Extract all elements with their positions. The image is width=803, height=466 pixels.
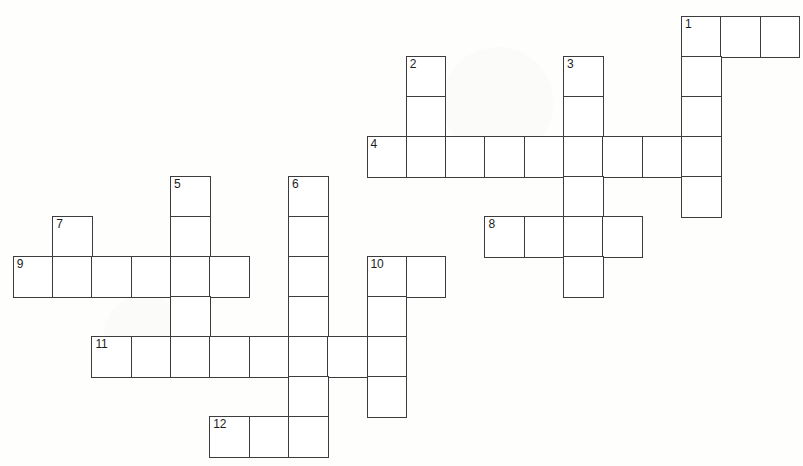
crossword-cell[interactable] — [406, 256, 447, 297]
crossword-cell[interactable] — [563, 176, 604, 217]
cell-number-9: 9 — [17, 257, 23, 271]
crossword-cell[interactable] — [288, 376, 329, 417]
crossword-cell[interactable]: 8 — [484, 216, 525, 257]
crossword-cell[interactable] — [642, 136, 683, 177]
cell-number-3: 3 — [567, 57, 573, 71]
crossword-cell[interactable] — [288, 296, 329, 337]
crossword-cell[interactable]: 7 — [52, 216, 93, 257]
crossword-cell[interactable] — [209, 336, 250, 377]
cell-number-6: 6 — [292, 177, 298, 191]
crossword-cell[interactable] — [760, 16, 801, 57]
crossword-cell[interactable] — [406, 96, 447, 137]
crossword-cell[interactable] — [563, 96, 604, 137]
crossword-cell[interactable] — [681, 176, 722, 217]
crossword-cell[interactable] — [720, 16, 761, 57]
crossword-cell[interactable] — [170, 296, 211, 337]
crossword-cell[interactable]: 9 — [13, 256, 54, 297]
crossword-cell[interactable]: 2 — [406, 56, 447, 97]
crossword-cell[interactable] — [445, 136, 486, 177]
crossword-cell[interactable] — [602, 136, 643, 177]
crossword-cell[interactable] — [602, 216, 643, 257]
cell-number-2: 2 — [410, 57, 416, 71]
crossword-cell[interactable] — [209, 256, 250, 297]
crossword-cell[interactable]: 3 — [563, 56, 604, 97]
crossword-cell[interactable] — [406, 136, 447, 177]
crossword-cell[interactable] — [170, 256, 211, 297]
crossword-cell[interactable] — [170, 216, 211, 257]
cell-number-4: 4 — [371, 137, 377, 151]
cell-number-5: 5 — [174, 177, 180, 191]
crossword-cell[interactable] — [131, 256, 172, 297]
crossword-cell[interactable] — [563, 256, 604, 297]
crossword-cell[interactable] — [681, 136, 722, 177]
crossword-cell[interactable]: 4 — [367, 136, 408, 177]
crossword-cell[interactable] — [288, 216, 329, 257]
crossword-cell[interactable] — [563, 216, 604, 257]
cell-number-10: 10 — [371, 257, 384, 271]
crossword-cell[interactable]: 5 — [170, 176, 211, 217]
crossword-cell[interactable] — [563, 136, 604, 177]
crossword-cell[interactable] — [52, 256, 93, 297]
crossword-cell[interactable] — [249, 416, 290, 457]
crossword-cell[interactable]: 1 — [681, 16, 722, 57]
crossword-cell[interactable] — [327, 336, 368, 377]
cell-number-11: 11 — [95, 337, 107, 351]
crossword-cell[interactable] — [249, 336, 290, 377]
cell-number-8: 8 — [488, 217, 494, 231]
crossword-cell[interactable]: 11 — [91, 336, 132, 377]
crossword-cell[interactable] — [170, 336, 211, 377]
cell-number-1: 1 — [685, 17, 691, 31]
crossword-cell[interactable]: 6 — [288, 176, 329, 217]
crossword-cell[interactable] — [524, 136, 565, 177]
crossword-cell[interactable] — [681, 96, 722, 137]
crossword-cell[interactable] — [484, 136, 525, 177]
cell-number-7: 7 — [56, 217, 62, 231]
crossword-cell[interactable] — [288, 336, 329, 377]
crossword-cell[interactable]: 12 — [209, 416, 250, 457]
crossword-cell[interactable]: 10 — [367, 256, 408, 297]
crossword-cell[interactable] — [681, 56, 722, 97]
crossword-cell[interactable] — [288, 256, 329, 297]
crossword-cell[interactable] — [288, 416, 329, 457]
crossword-cell[interactable] — [367, 376, 408, 417]
cell-number-12: 12 — [213, 417, 226, 431]
crossword-cell[interactable] — [524, 216, 565, 257]
crossword-cell[interactable] — [91, 256, 132, 297]
crossword-cell[interactable] — [131, 336, 172, 377]
crossword-cell[interactable] — [367, 336, 408, 377]
crossword-grid: 123456789101112 — [0, 0, 803, 466]
crossword-cell[interactable] — [367, 296, 408, 337]
